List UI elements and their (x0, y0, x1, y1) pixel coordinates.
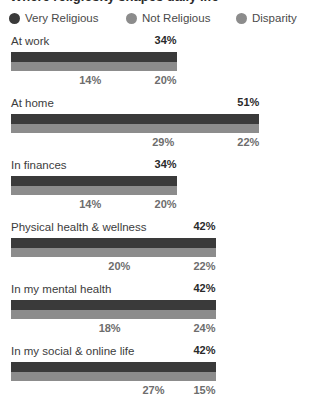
value-label-very-religious: 34% (155, 35, 177, 46)
value-label-disparity: 22% (194, 261, 216, 272)
bar-segment-very-religious (11, 52, 177, 62)
value-label-disparity: 15% (194, 385, 216, 396)
stacked-bar[interactable] (11, 52, 177, 71)
bar-segment-not-religious (11, 124, 259, 133)
value-label-not-religious: 18% (99, 323, 121, 334)
page-title: Where religiosity shapes daily life (10, 0, 219, 4)
value-label-not-religious: 20% (108, 261, 130, 272)
value-label-disparity: 22% (237, 137, 259, 148)
value-label-disparity: 20% (155, 75, 177, 86)
bar-group[interactable]: In my social & online life 42% 27% 15% (0, 346, 312, 408)
bar-segment-very-religious (11, 114, 259, 124)
value-label-very-religious: 42% (194, 345, 216, 356)
value-label-very-religious: 51% (237, 97, 259, 108)
bar-segment-not-religious (11, 248, 216, 257)
category-label: At work (11, 36, 49, 48)
bar-segment-very-religious (11, 176, 177, 186)
bar-group[interactable]: Physical health & wellness 42% 20% 22% (0, 222, 312, 284)
bar-segment-very-religious (11, 300, 216, 310)
value-label-disparity: 20% (155, 199, 177, 210)
value-label-very-religious: 42% (194, 221, 216, 232)
category-label: Physical health & wellness (11, 222, 147, 234)
value-label-not-religious: 14% (79, 199, 101, 210)
legend-dot-icon (9, 13, 20, 24)
bar-group[interactable]: At work 34% 14% 20% (0, 36, 312, 98)
legend-item-very-religious[interactable]: Very Religious (9, 13, 99, 25)
legend-item-disparity[interactable]: Disparity (236, 13, 297, 25)
value-label-disparity: 24% (194, 323, 216, 334)
chart-plot-area: At work 34% 14% 20% At home 51% 29% 22% … (0, 36, 312, 408)
legend-label-not-religious: Not Religious (142, 13, 210, 25)
chart-title-clipped: Where religiosity shapes daily life (0, 0, 312, 8)
value-label-not-religious: 29% (152, 137, 174, 148)
value-label-not-religious: 27% (142, 385, 164, 396)
legend-dot-icon (126, 13, 137, 24)
stacked-bar[interactable] (11, 176, 177, 195)
bar-segment-very-religious (11, 238, 216, 248)
category-label: At home (11, 98, 54, 110)
legend-label-very-religious: Very Religious (25, 13, 99, 25)
stacked-bar[interactable] (11, 238, 216, 257)
legend-item-not-religious[interactable]: Not Religious (126, 13, 210, 25)
bar-segment-very-religious (11, 362, 216, 372)
stacked-bar[interactable] (11, 362, 216, 381)
bar-segment-not-religious (11, 372, 216, 381)
bar-segment-not-religious (11, 310, 216, 319)
bar-segment-not-religious (11, 62, 177, 71)
stacked-bar[interactable] (11, 300, 216, 319)
category-label: In my mental health (11, 284, 111, 296)
stacked-bar[interactable] (11, 114, 259, 133)
bar-group[interactable]: At home 51% 29% 22% (0, 98, 312, 160)
bar-group[interactable]: In finances 34% 14% 20% (0, 160, 312, 222)
bar-segment-not-religious (11, 186, 177, 195)
chart-legend: Very Religious Not Religious Disparity (0, 13, 312, 31)
category-label: In finances (11, 160, 67, 172)
value-label-very-religious: 42% (194, 283, 216, 294)
legend-label-disparity: Disparity (252, 13, 297, 25)
value-label-not-religious: 14% (79, 75, 101, 86)
legend-dot-icon (236, 13, 247, 24)
value-label-very-religious: 34% (155, 159, 177, 170)
category-label: In my social & online life (11, 346, 134, 358)
bar-group[interactable]: In my mental health 42% 18% 24% (0, 284, 312, 346)
